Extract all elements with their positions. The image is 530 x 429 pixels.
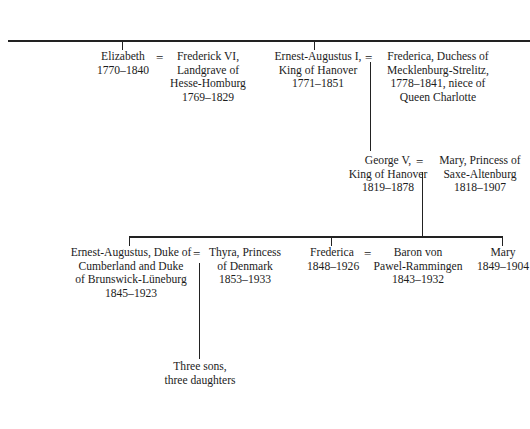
title: of Denmark: [205, 260, 285, 274]
title: Pawel-Rammingen: [370, 260, 466, 274]
title: Hesse-Homburg: [165, 77, 251, 91]
elizabeth-tick: [122, 40, 123, 50]
marriage-symbol: =: [416, 155, 423, 168]
person-frederica-mecklenburg: Frederica, Duchess of Mecklenburg-Streli…: [380, 50, 496, 104]
name: Ernest-Augustus I,: [270, 50, 366, 64]
marriage-symbol: =: [193, 247, 200, 260]
person-baron-von-pawel-rammingen: Baron von Pawel-Rammingen 1843–1932: [370, 246, 466, 287]
dates: 1843–1932: [370, 273, 466, 287]
dates: 1818–1907: [432, 181, 528, 195]
title: of Brunswick-Lüneburg: [68, 273, 194, 287]
person-elizabeth: Elizabeth 1770–1840: [88, 50, 158, 77]
marriage-symbol: =: [365, 51, 372, 64]
name: Mary, Princess of: [432, 154, 528, 168]
name: Elizabeth: [88, 50, 158, 64]
ernest-augustus-tick: [129, 236, 130, 246]
dates: 1848–1926: [307, 260, 357, 274]
mary-tick: [502, 236, 503, 246]
children-line: Three sons,: [150, 360, 250, 374]
title: King of Hanover: [270, 64, 366, 78]
title: Mecklenburg-Strelitz,: [380, 64, 496, 78]
frederica-tick: [331, 236, 332, 246]
children-summary: Three sons, three daughters: [150, 360, 250, 387]
person-thyra: Thyra, Princess of Denmark 1853–1933: [205, 246, 285, 287]
name: Frederica: [307, 246, 357, 260]
name: Frederica, Duchess of: [380, 50, 496, 64]
dates: 1853–1933: [205, 273, 285, 287]
dates: 1845–1923: [68, 287, 194, 301]
person-frederica: Frederica 1848–1926: [307, 246, 357, 273]
ernest-augustus-i-tick: [314, 40, 315, 50]
top-sibling-line: [8, 40, 530, 42]
person-frederick-vi: Frederick VI, Landgrave of Hesse-Homburg…: [165, 50, 251, 104]
person-ernest-augustus-cumberland: Ernest-Augustus, Duke of Cumberland and …: [68, 246, 194, 300]
ernest-augustus-i-descent-line: [370, 62, 371, 151]
title: Saxe-Altenburg: [432, 168, 528, 182]
title: Landgrave of: [165, 64, 251, 78]
dates: 1771–1851: [270, 77, 366, 91]
george-v-children-line: [129, 236, 503, 238]
dates: 1849–1904: [476, 260, 530, 274]
dates: 1778–1841, niece of: [380, 77, 496, 91]
person-ernest-augustus-i: Ernest-Augustus I, King of Hanover 1771–…: [270, 50, 366, 91]
name: Thyra, Princess: [205, 246, 285, 260]
note: Queen Charlotte: [380, 91, 496, 105]
name: Ernest-Augustus, Duke of: [68, 246, 194, 260]
children-line: three daughters: [150, 374, 250, 388]
dates: 1819–1878: [340, 181, 436, 195]
title: Cumberland and Duke: [68, 260, 194, 274]
dates: 1769–1829: [165, 91, 251, 105]
person-mary: Mary 1849–1904: [476, 246, 530, 273]
name: Mary: [476, 246, 530, 260]
title: King of Hanover: [340, 168, 436, 182]
person-mary-saxe-altenburg: Mary, Princess of Saxe-Altenburg 1818–19…: [432, 154, 528, 195]
ernest-augustus-descent-line: [199, 263, 200, 359]
name: Baron von: [370, 246, 466, 260]
dates: 1770–1840: [88, 64, 158, 78]
marriage-symbol: =: [156, 51, 163, 64]
name: Frederick VI,: [165, 50, 251, 64]
